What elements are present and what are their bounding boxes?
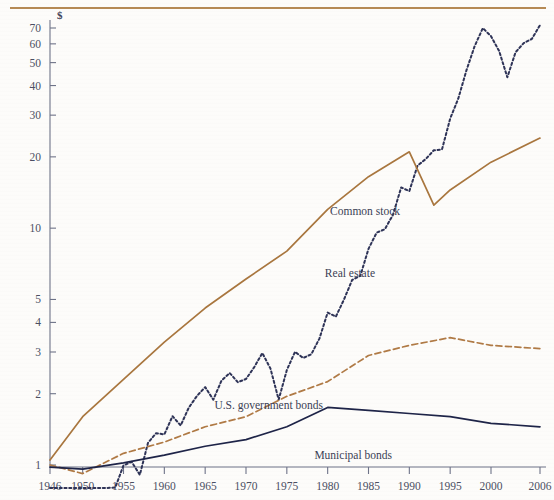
x-axis-tick-label: 1975	[275, 480, 298, 492]
x-axis-tick-label: 1995	[439, 480, 462, 492]
y-axis-tick-label: 3	[35, 346, 41, 358]
series-line-real-estate	[50, 138, 540, 460]
y-axis-tick-label: 40	[30, 80, 42, 92]
x-axis-tick-label: 1946	[39, 480, 62, 492]
series-line-municipal-bonds	[50, 407, 540, 469]
axis-group: 1234510203040506070$19461950195519601965…	[30, 9, 552, 492]
series-annotation-municipal-bonds: Municipal bonds	[314, 449, 392, 462]
y-axis-tick-label: 4	[35, 316, 41, 328]
x-axis-tick-label: 1990	[398, 480, 421, 492]
chart-container: 1234510203040506070$19461950195519601965…	[0, 0, 554, 500]
x-axis-tick-label: 1980	[316, 480, 339, 492]
x-axis-tick-label: 2000	[480, 480, 503, 492]
y-axis-tick-label: 2	[35, 388, 41, 400]
y-axis-tick-label: 20	[30, 151, 42, 163]
y-axis-tick-label: 5	[35, 293, 41, 305]
series-label-group: Common stockReal estateU.S. government b…	[214, 205, 400, 462]
x-axis-tick-label: 1970	[235, 480, 258, 492]
y-axis-tick-label: 50	[30, 57, 42, 69]
x-axis-tick-label: 1965	[194, 480, 217, 492]
y-axis-unit-label: $	[57, 9, 63, 21]
x-axis-tick-label: 1960	[153, 480, 176, 492]
line-chart-svg: 1234510203040506070$19461950195519601965…	[0, 0, 554, 500]
series-annotation-real-estate: Real estate	[325, 267, 375, 279]
series-group	[50, 25, 540, 488]
series-annotation-common-stock: Common stock	[330, 205, 400, 217]
x-axis-tick-label: 2006	[529, 480, 552, 492]
y-axis-tick-label: 60	[30, 38, 42, 50]
y-axis-tick-label: 1	[35, 459, 41, 471]
x-axis-tick-label: 1950	[71, 480, 94, 492]
y-axis-tick-label: 30	[30, 109, 42, 121]
y-axis-tick-label: 10	[30, 222, 42, 234]
series-annotation-u-s-government-bonds: U.S. government bonds	[214, 399, 323, 412]
y-axis-tick-label: 70	[30, 22, 42, 34]
x-axis-tick-label: 1985	[357, 480, 380, 492]
